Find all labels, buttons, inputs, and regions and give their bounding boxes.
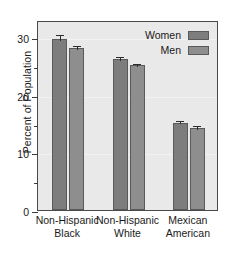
error-bar-cap xyxy=(116,57,124,58)
legend-swatch-men xyxy=(188,46,209,55)
legend-label-women: Women xyxy=(145,29,181,41)
bar-men xyxy=(130,65,145,210)
y-tick-major xyxy=(32,154,38,155)
error-bar-cap xyxy=(176,121,184,122)
legend: Women Men xyxy=(145,29,209,56)
bar-women xyxy=(52,39,67,210)
y-tick-label: 30 xyxy=(17,33,29,45)
x-axis-label: MexicanAmerican xyxy=(148,214,228,239)
bar-chart-figure: Percent of Population 0102030 Women Men … xyxy=(0,0,247,254)
legend-item-women: Women xyxy=(145,29,209,41)
bar-women xyxy=(173,123,188,211)
error-bar-cap xyxy=(56,35,64,36)
y-tick-label: 10 xyxy=(17,148,29,160)
y-tick-minor xyxy=(34,183,38,184)
error-bar-cap xyxy=(193,126,201,127)
x-axis-label-line: Mexican xyxy=(148,214,228,227)
plot-area: 0102030 Women Men xyxy=(37,21,218,211)
y-tick-major xyxy=(32,212,38,213)
y-tick-minor xyxy=(34,126,38,127)
bar-men xyxy=(190,128,205,210)
bar-women xyxy=(113,59,128,210)
y-tick-major xyxy=(32,39,38,40)
y-tick-label: 20 xyxy=(17,91,29,103)
legend-swatch-women xyxy=(188,31,209,40)
bar-men xyxy=(69,48,84,210)
error-bar-cap xyxy=(73,46,81,47)
error-bar-cap xyxy=(133,64,141,65)
x-axis-label-line: American xyxy=(148,227,228,240)
legend-label-men: Men xyxy=(161,44,181,56)
y-tick-minor xyxy=(34,68,38,69)
y-tick-major xyxy=(32,97,38,98)
legend-item-men: Men xyxy=(145,44,209,56)
